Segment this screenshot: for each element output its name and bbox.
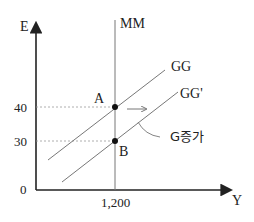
x-tick-1200: 1,200 <box>101 195 130 210</box>
y-axis-label: E <box>20 19 29 34</box>
y-tick-40: 40 <box>14 100 27 115</box>
annotation-leader <box>138 122 160 137</box>
y-tick-30: 30 <box>14 134 27 149</box>
x-axis-label: Y <box>232 193 242 208</box>
mm-label: MM <box>120 16 145 31</box>
point-b-label: B <box>119 144 128 159</box>
point-a <box>112 104 118 110</box>
gg-curve <box>48 70 165 160</box>
gg-prime-curve <box>62 92 178 182</box>
gg-prime-label: GG' <box>180 86 203 101</box>
point-a-label: A <box>94 91 105 106</box>
is-diagram: E Y 0 40 30 1,200 MM GG GG' A B G증가 <box>0 0 254 222</box>
origin-label: 0 <box>20 182 27 197</box>
shift-note: G증가 <box>170 129 204 144</box>
point-b <box>112 138 118 144</box>
gg-label: GG <box>171 59 191 74</box>
